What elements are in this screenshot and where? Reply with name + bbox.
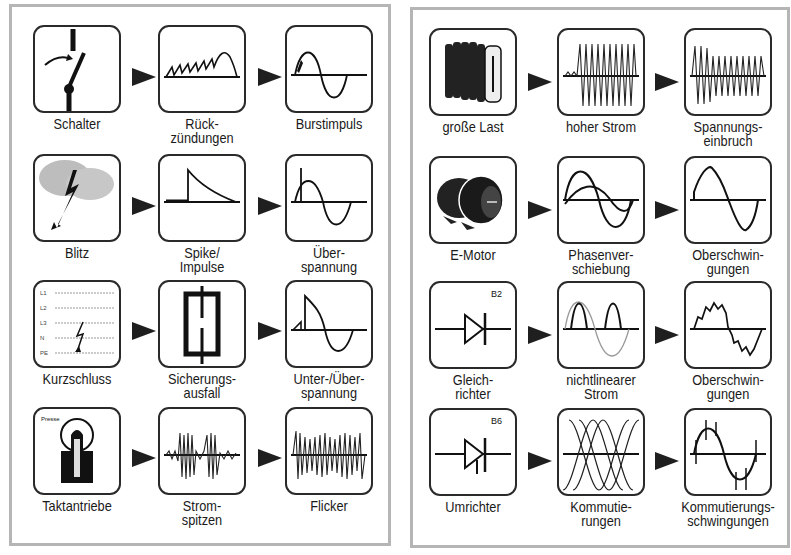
item-kurzschluss: L1 L2 L3 N PE Kurzschluss [33, 280, 121, 368]
restrike-waveform-icon [158, 25, 246, 113]
nonlinear-current-icon [557, 281, 645, 369]
arrow-icon [528, 452, 552, 470]
item-label: hoher Strom [536, 120, 666, 134]
svg-text:L2: L2 [40, 305, 47, 311]
commutation-waves-icon [557, 408, 645, 496]
item-label: Spike/ Impulse [137, 246, 267, 274]
burst-sine-icon [285, 25, 373, 113]
item-e-motor: E-Motor [429, 156, 517, 244]
item-umrichter: B6 Umrichter [429, 408, 517, 496]
voltage-dip-waveform-icon [684, 28, 772, 116]
svg-text:L1: L1 [40, 290, 47, 296]
item-label: Gleich- richter [408, 373, 538, 401]
arrow-icon [258, 197, 282, 215]
thyristor-icon: B6 [429, 408, 517, 496]
overvoltage-sine-icon [285, 154, 373, 242]
arrow-icon [655, 326, 679, 344]
item-label: große Last [408, 120, 538, 134]
arrow-icon [655, 73, 679, 91]
left-panel: Schalter Rück- zündungen Burstimpuls Bli… [9, 4, 391, 546]
item-blitz: Blitz [33, 154, 121, 242]
arrow-icon [528, 201, 552, 219]
electric-motor-icon [429, 156, 517, 244]
diode-icon: B2 [429, 281, 517, 369]
item-oberschwingungen-2: Oberschwin- gungen [684, 281, 772, 369]
arrow-icon [528, 73, 552, 91]
item-label: Sicherungs- ausfall [137, 372, 267, 400]
item-label: Umrichter [408, 500, 538, 514]
item-label: Über- spannung [264, 246, 394, 274]
item-label: Flicker [264, 499, 394, 513]
arrow-icon [258, 449, 282, 467]
arrow-icon [132, 449, 156, 467]
item-nichtlinearer-strom: nichtlinearer Strom [557, 281, 645, 369]
item-gleichrichter: B2 Gleich- richter [429, 281, 517, 369]
phase-shift-waveform-icon [557, 156, 645, 244]
distorted-sine-icon [684, 156, 772, 244]
svg-text:Presse: Presse [41, 416, 60, 422]
item-label: Burstimpuls [264, 117, 394, 131]
item-label: Kurzschluss [12, 372, 142, 386]
short-circuit-lines-icon: L1 L2 L3 N PE [33, 280, 121, 368]
item-label: Kommutie- rungen [536, 500, 666, 528]
item-taktantriebe: Presse Taktantriebe [33, 407, 121, 495]
item-spike-impulse: Spike/ Impulse [158, 154, 246, 242]
item-label: Unter-/Über- spannung [264, 372, 394, 400]
arrow-icon [655, 452, 679, 470]
item-label: Strom- spitzen [137, 499, 267, 527]
item-label: Phasenver- schiebung [536, 248, 666, 276]
item-spannungseinbruch: Spannungs- einbruch [684, 28, 772, 116]
arrow-icon [132, 68, 156, 86]
arrow-icon [132, 322, 156, 340]
item-hoher-strom: hoher Strom [557, 28, 645, 116]
item-unter-ueberspannung: Unter-/Über- spannung [285, 280, 373, 368]
commutation-notches-icon [684, 408, 772, 496]
arrow-icon [258, 322, 282, 340]
item-phasenverschiebung: Phasenver- schiebung [557, 156, 645, 244]
item-label: Spannungs- einbruch [663, 120, 791, 148]
arrow-icon [528, 326, 552, 344]
item-label: Schalter [12, 117, 142, 131]
arrow-icon [258, 68, 282, 86]
item-stromspitzen: Strom- spitzen [158, 407, 246, 495]
item-kommutierungsschwingungen: Kommutierungs- schwingungen [684, 408, 772, 496]
item-ueberspannung: Über- spannung [285, 154, 373, 242]
item-label: E-Motor [408, 248, 538, 262]
item-label: nichtlinearer Strom [536, 373, 666, 401]
item-label: Rück- zündungen [137, 117, 267, 145]
svg-text:B2: B2 [491, 289, 502, 299]
spike-impulse-icon [158, 154, 246, 242]
fuse-icon [158, 280, 246, 368]
item-grosse-last: große Last [429, 28, 517, 116]
svg-text:PE: PE [40, 350, 48, 356]
item-label: Taktantriebe [12, 499, 142, 513]
flicker-waveform-icon [285, 407, 373, 495]
harmonic-ripple-icon [684, 281, 772, 369]
svg-text:L3: L3 [40, 320, 47, 326]
item-schalter: Schalter [33, 25, 121, 113]
item-burstimpuls: Burstimpuls [285, 25, 373, 113]
under-over-voltage-icon [285, 280, 373, 368]
item-label: Oberschwin- gungen [663, 248, 791, 276]
item-sicherungsausfall: Sicherungs- ausfall [158, 280, 246, 368]
item-label: Oberschwin- gungen [663, 373, 791, 401]
item-label: Blitz [12, 246, 142, 260]
svg-text:B6: B6 [491, 416, 502, 426]
switch-icon [33, 25, 121, 113]
item-oberschwingungen-1: Oberschwin- gungen [684, 156, 772, 244]
press-icon: Presse [33, 407, 121, 495]
svg-text:N: N [40, 335, 44, 341]
arrow-icon [655, 201, 679, 219]
lightning-cloud-icon [33, 154, 121, 242]
heater-radiator-icon [429, 28, 517, 116]
high-current-waveform-icon [557, 28, 645, 116]
right-panel: große Last hoher Strom Spannungs- einbru… [410, 7, 790, 548]
item-rueckzuendungen: Rück- zündungen [158, 25, 246, 113]
item-flicker: Flicker [285, 407, 373, 495]
arrow-icon [132, 197, 156, 215]
item-label: Kommutierungs- schwingungen [663, 500, 791, 528]
current-spikes-icon [158, 407, 246, 495]
item-kommutierungen: Kommutie- rungen [557, 408, 645, 496]
